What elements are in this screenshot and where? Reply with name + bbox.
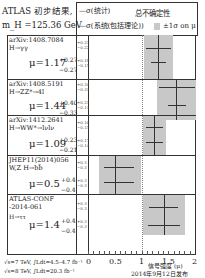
- stat-error-bar: [104, 182, 134, 183]
- channel: H→WW*→lνlν: [9, 124, 54, 133]
- syst-error-bar: [146, 127, 163, 128]
- xtick-0: 0: [86, 257, 91, 266]
- x-axis-ticks: [88, 251, 195, 255]
- channel: H→ZZ*→4l: [9, 88, 44, 97]
- stat-error-bar: [168, 105, 186, 106]
- row-htautau: ATLAS-CONF -2014-061 H→ττ μ=1.4 +0.4 −0.…: [7, 195, 196, 235]
- mu-down: −0.4: [61, 226, 76, 235]
- syst-error-bar: [104, 167, 134, 168]
- syst-down: −0.3: [77, 207, 87, 212]
- mu-up: +0.4: [61, 175, 76, 184]
- syst-down: −0.22: [77, 46, 89, 51]
- central-value-line: [115, 156, 116, 194]
- legend-total-title: 总不确定性: [135, 9, 170, 18]
- central-value-line: [176, 80, 177, 120]
- legend-syst: —σ(系统(包括理论)): [79, 22, 144, 31]
- xtick-2: 2: [192, 257, 197, 266]
- mu-up: +0.40: [59, 98, 77, 107]
- stat-error-bar: [151, 62, 166, 63]
- mu-down: −0.21: [59, 145, 77, 154]
- syst-down: −0.3: [77, 166, 87, 171]
- stat-down: −0.11: [77, 106, 89, 111]
- release-date: 2014年9月12日发布: [131, 269, 188, 278]
- stat-down: −0.14: [77, 144, 89, 149]
- higgs-mass: m_H =125.36 GeV: [2, 20, 82, 31]
- central-value-line: [154, 116, 155, 155]
- syst-error-bar: [146, 48, 171, 49]
- stat-error-bar: [148, 225, 180, 226]
- xtick-1: 1: [139, 257, 144, 266]
- legend: —σ(统计) 总不确定性 —σ(系统(包括理论)) ±1σ on μ: [76, 2, 198, 36]
- mu-value: μ=0.5: [29, 178, 60, 189]
- syst-error-bar: [159, 87, 195, 88]
- syst-down: −0.15: [77, 126, 89, 131]
- row-hww: arXiv:1412.2641 H→WW*→lνlν μ=1.09 +0.23 …: [7, 116, 196, 155]
- stat-down: −0.3: [77, 225, 87, 230]
- channel: H→ττ: [9, 212, 26, 221]
- row-hzz: arXiv:1408.5191 H→ZZ*→4l μ=1.44 +0.40 −0…: [7, 80, 196, 120]
- row-hgg: arXiv:1408.7084 H→γγ μ=1.17 +0.27 −0.27 …: [7, 35, 196, 79]
- legend-total-band: ±1σ on μ: [163, 22, 196, 31]
- channel: W,Z H→bb̄: [9, 164, 43, 173]
- xtick-0.5: 0.5: [109, 257, 122, 266]
- energy-8tev: √s=8 TeV, ∫Ldt=20.3 fb⁻¹: [4, 267, 75, 276]
- mu-down: −0.27: [59, 65, 77, 74]
- channel: H→γγ: [9, 44, 28, 53]
- mu-up: +0.23: [59, 135, 77, 144]
- syst-down: −0.31: [77, 88, 89, 93]
- mu-down: −0.4: [61, 185, 76, 194]
- syst-error-bar: [149, 207, 178, 208]
- stat-down: −0.15: [77, 64, 89, 69]
- legend-band-swatch: [154, 23, 160, 30]
- central-value-line: [164, 195, 165, 235]
- mu-value: μ=1.4: [29, 219, 60, 230]
- stat-error-bar: [146, 142, 163, 143]
- stat-down: −0.3: [77, 184, 87, 189]
- ref-line2: -2014-061: [9, 203, 42, 212]
- energy-7tev: √s=7 TeV, ∫Ldt=4.5–4.7 fb⁻¹: [4, 258, 83, 267]
- mu-up: +0.4: [61, 216, 76, 225]
- total-uncertainty-band: [99, 156, 141, 194]
- chart-title: ATLAS 初步结果,: [2, 6, 72, 17]
- row-hbb: JHEP11(2014)056 W,Z H→bb̄ μ=0.5 +0.4 −0.…: [7, 156, 196, 194]
- mu-up: +0.27: [59, 55, 77, 64]
- legend-stat: —σ(统计): [79, 7, 110, 16]
- central-value-line: [158, 35, 159, 79]
